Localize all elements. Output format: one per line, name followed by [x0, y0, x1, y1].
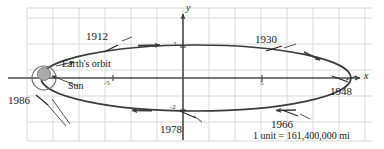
sun-callout: Sun [68, 80, 84, 91]
orbit-diagram-figure: x y -5 5 2 -2 1912 1930 1948 1966 1978 1… [0, 0, 384, 149]
orbit-diagram-canvas [0, 0, 384, 149]
x-axis-label: x [364, 70, 368, 81]
leader-1930 [284, 44, 296, 48]
scale-note: 1 unit = 161,400,000 mi [253, 130, 350, 141]
y-tick-label-pos2: 2 [173, 40, 177, 48]
leader-1978 [194, 116, 202, 122]
x-tick-label-neg5: -5 [104, 79, 110, 87]
year-label-1978: 1978 [160, 123, 182, 135]
y-tick-label-neg2: -2 [170, 103, 176, 111]
direction-arrow-top-right [304, 52, 320, 60]
y-axis-label: y [186, 2, 190, 13]
background-grid [27, 8, 372, 141]
year-label-1986: 1986 [8, 94, 30, 106]
axes [8, 14, 360, 140]
leader-lines [46, 37, 356, 126]
direction-arrow-bottom-right [276, 110, 296, 111]
year-label-1948: 1948 [330, 85, 352, 97]
year-label-1912: 1912 [86, 30, 108, 42]
leader-1966 [300, 114, 310, 119]
marker-1948 [332, 76, 348, 82]
x-tick-label-pos5: 5 [260, 79, 264, 87]
year-label-1966: 1966 [271, 118, 293, 130]
year-label-1930: 1930 [255, 33, 277, 45]
sun-marker [38, 68, 51, 81]
earth-orbit-callout: Earth's orbit [62, 58, 111, 69]
